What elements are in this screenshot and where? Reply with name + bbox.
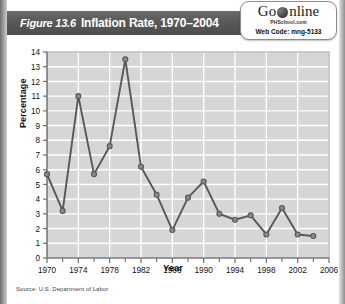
data-point-marker: [60, 208, 65, 213]
y-axis-tick-label: 0: [35, 254, 40, 263]
phschool-site-label: PHSchool.com: [245, 19, 332, 26]
figure-title: Inflation Rate, 1970–2004: [81, 16, 219, 30]
y-axis-tick-label: 10: [31, 107, 41, 116]
data-point-marker: [217, 211, 222, 216]
go-online-badge[interactable]: Go nline PHSchool.com Web Code: mng-5133: [240, 1, 337, 40]
web-code-label: Web Code: mng-5133: [245, 27, 332, 36]
x-axis-tick-label: 1970: [38, 266, 57, 275]
y-axis-tick-label: 3: [35, 210, 40, 219]
chart-container: Percentage Year 012345678910111213141970…: [7, 40, 339, 276]
y-axis-tick-label: 8: [35, 136, 40, 145]
data-point-marker: [233, 217, 238, 222]
x-axis-tick-label: 1982: [132, 266, 151, 275]
figure-page: Figure 13.6 Inflation Rate, 1970–2004 Go…: [0, 0, 345, 304]
y-axis-tick-label: 14: [31, 48, 41, 57]
x-axis-tick-label: 1974: [69, 266, 88, 275]
x-axis-tick-label: 1990: [195, 266, 214, 275]
data-point-marker: [107, 144, 112, 149]
globe-icon: [277, 7, 288, 18]
x-axis-tick-label: 2006: [320, 266, 339, 275]
data-point-marker: [201, 179, 206, 184]
page-right-edge: [339, 0, 345, 304]
y-axis-tick-label: 13: [31, 63, 41, 72]
x-axis-tick-label: 1994: [226, 266, 245, 275]
source-note: Source: U.S. Department of Labor: [16, 286, 108, 292]
go-online-online-text: nline: [289, 4, 319, 19]
x-axis-tick-label: 1986: [163, 266, 182, 275]
data-point-marker: [45, 172, 50, 177]
data-point-marker: [264, 232, 269, 237]
x-axis-tick-label: 2002: [289, 266, 308, 275]
y-axis-tick-label: 2: [35, 225, 40, 234]
data-point-marker: [139, 164, 144, 169]
data-point-marker: [248, 213, 253, 218]
y-axis-tick-label: 6: [35, 166, 40, 175]
go-online-wordmark: Go nline: [245, 3, 332, 19]
page-left-edge: [0, 0, 7, 304]
go-online-go-text: Go: [258, 4, 276, 19]
x-axis-tick-label: 1978: [101, 266, 120, 275]
y-axis-tick-label: 7: [35, 151, 40, 160]
data-point-marker: [123, 57, 128, 62]
y-axis-tick-label: 11: [32, 92, 41, 101]
y-axis-tick-label: 4: [35, 195, 40, 204]
line-chart-plot: 0123456789101112131419701974197819821986…: [7, 40, 339, 276]
data-point-marker: [76, 94, 81, 99]
data-point-marker: [92, 172, 97, 177]
data-point-marker: [280, 205, 285, 210]
data-point-marker: [154, 192, 159, 197]
y-axis-tick-label: 1: [35, 239, 40, 248]
data-point-marker: [186, 195, 191, 200]
x-axis-tick-label: 1998: [257, 266, 276, 275]
y-axis-tick-label: 12: [31, 78, 41, 87]
y-axis-tick-label: 9: [35, 122, 40, 131]
data-point-marker: [170, 228, 175, 233]
figure-number: Figure 13.6: [20, 17, 76, 29]
data-point-marker: [295, 232, 300, 237]
data-point-marker: [311, 233, 316, 238]
y-axis-tick-label: 5: [35, 181, 40, 190]
